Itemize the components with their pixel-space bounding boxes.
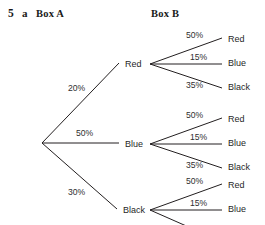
- level2-probability-blue-blue: 15%: [190, 132, 208, 142]
- level2-probability-blue-red: 50%: [186, 110, 204, 120]
- tree-diagram-page: 5 a Box A Box B 20%50%30%50%15%35%50%15%…: [0, 0, 265, 225]
- level2-probability-red-black: 35%: [186, 80, 204, 90]
- level2-edge-blue-red: [150, 118, 222, 144]
- level2-node-blue-blue: Blue: [228, 138, 246, 148]
- level2-node-red-red: Red: [228, 34, 245, 44]
- level1-probability-black: 30%: [68, 187, 86, 197]
- level1-node-blue: Blue: [125, 139, 143, 149]
- level1-edge-black: [42, 143, 117, 209]
- outcome-labels: RedBlueBlackRedBlueBlackRedBlueBlackRedB…: [123, 34, 251, 215]
- level2-probability-red-blue: 15%: [190, 52, 208, 62]
- level2-node-black-red: Red: [228, 180, 245, 190]
- level2-node-blue-black: Black: [228, 162, 251, 172]
- level2-edge-red-red: [150, 38, 222, 64]
- level1-node-black: Black: [123, 205, 146, 215]
- level2-node-red-black: Black: [228, 82, 251, 92]
- level2-edge-black-red: [150, 184, 222, 210]
- probability-tree-svg: 20%50%30%50%15%35%50%15%35%50%15% RedBlu…: [0, 0, 265, 225]
- level2-probability-red-red: 50%: [186, 30, 204, 40]
- level2-probability-black-blue: 15%: [190, 198, 208, 208]
- level1-node-red: Red: [125, 59, 142, 69]
- level2-edge-black-clipped: [150, 210, 200, 225]
- level2-node-red-blue: Blue: [228, 58, 246, 68]
- level2-node-blue-red: Red: [228, 114, 245, 124]
- level1-probability-red: 20%: [68, 83, 86, 93]
- level2-edges: [150, 38, 222, 225]
- level1-probability-blue: 50%: [76, 128, 94, 138]
- level2-probability-blue-black: 35%: [186, 160, 204, 170]
- level2-node-black-blue: Blue: [228, 204, 246, 214]
- probability-labels: 20%50%30%50%15%35%50%15%35%50%15%: [68, 30, 208, 208]
- level2-probability-black-red: 50%: [186, 176, 204, 186]
